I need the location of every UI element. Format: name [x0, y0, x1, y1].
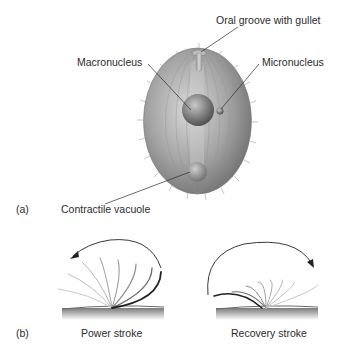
label-recovery-stroke: Recovery stroke — [231, 327, 307, 339]
power-stroke-diagram — [58, 240, 164, 320]
label-micronucleus: Micronucleus — [262, 56, 324, 68]
micronucleus — [217, 108, 224, 115]
power-stroke-arrow — [73, 240, 161, 268]
surface-right — [216, 308, 318, 320]
macronucleus — [182, 94, 214, 126]
paramecium-diagram — [0, 0, 339, 350]
panel-tag-a: (a) — [16, 203, 29, 215]
panel-tag-b: (b) — [16, 327, 29, 339]
label-macronucleus: Macronucleus — [77, 56, 142, 68]
arrowhead-icon — [307, 259, 314, 268]
leader-oral-groove — [201, 27, 238, 52]
label-oral-groove: Oral groove with gullet — [216, 14, 320, 26]
recovery-stroke-diagram — [208, 242, 318, 320]
arrowhead-icon — [70, 251, 79, 259]
label-power-stroke: Power stroke — [81, 327, 142, 339]
label-contractile-vacuole: Contractile vacuole — [61, 203, 150, 215]
recovery-stroke-arrow — [208, 242, 312, 295]
surface-left — [62, 308, 164, 320]
cell — [137, 43, 258, 200]
